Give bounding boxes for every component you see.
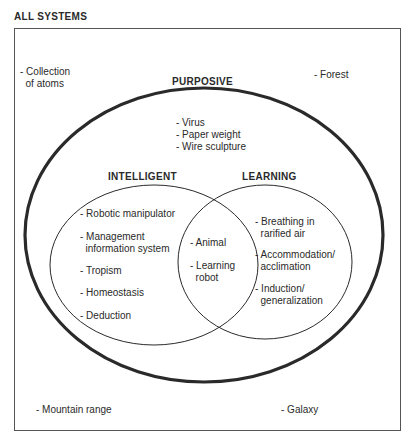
intersection-item: - Learning robot [190, 260, 235, 284]
learning-item: - Accommodation/ acclimation [255, 249, 335, 273]
purposive-item: - Paper weight [176, 129, 240, 141]
purposive-item: - Virus [176, 117, 205, 129]
outside-item: - Collection of atoms [20, 66, 70, 90]
outside-item: - Galaxy [281, 404, 318, 416]
intelligent-item: - Robotic manipulator [80, 208, 175, 220]
intelligent-item: - Deduction [80, 310, 131, 322]
intelligent-item: - Tropism [80, 265, 122, 277]
intelligent-item: - Management information system [80, 231, 169, 255]
intersection-item: - Animal [190, 237, 226, 249]
learning-label: LEARNING [242, 171, 297, 182]
intelligent-item: - Homeostasis [80, 287, 144, 299]
intelligent-label: INTELLIGENT [108, 171, 177, 182]
purposive-label: PURPOSIVE [172, 76, 233, 87]
purposive-item: - Wire sculpture [176, 141, 246, 153]
learning-item: - Breathing in rarified air [255, 216, 314, 240]
outside-item: - Mountain range [36, 404, 112, 416]
outside-item: - Forest [314, 69, 348, 81]
learning-item: - Induction/ generalization [255, 283, 323, 307]
